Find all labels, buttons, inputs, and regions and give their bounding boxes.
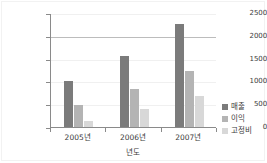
bar-chart-figure: 05001000150020002500 2005년2006년2007년 년도 … — [0, 0, 267, 163]
legend-item[interactable]: 이익 — [222, 113, 266, 124]
x-tick-label: 2005년 — [48, 133, 108, 142]
x-tick-label: 2007년 — [158, 133, 218, 142]
legend-label: 매출 — [231, 102, 245, 111]
x-tick-mark — [216, 128, 217, 132]
y-tick-label: 2000 — [223, 33, 267, 40]
x-tick-mark — [105, 128, 106, 132]
legend-label: 이익 — [231, 114, 245, 123]
legend-swatch-icon — [222, 128, 228, 134]
bar — [64, 81, 73, 127]
bar — [185, 71, 194, 127]
x-tick-mark — [50, 128, 51, 132]
bar — [140, 109, 149, 127]
gridline-2500 — [51, 14, 216, 15]
x-axis-title: 년도 — [50, 148, 216, 157]
plot-area — [50, 14, 216, 128]
bar — [120, 56, 129, 127]
legend-item[interactable]: 매출 — [222, 101, 266, 112]
gridline-2000 — [51, 37, 216, 38]
bar — [84, 121, 93, 127]
x-tick-label: 2006년 — [103, 133, 163, 142]
y-tick-label: 1500 — [223, 56, 267, 63]
y-tick-label: 2500 — [223, 10, 267, 17]
bar — [175, 24, 184, 128]
chart-legend: 매출이익고정비 — [222, 101, 266, 137]
legend-label: 고정비 — [231, 126, 252, 135]
legend-swatch-icon — [222, 116, 228, 122]
bar — [195, 96, 204, 127]
x-tick-mark — [161, 128, 162, 132]
legend-item[interactable]: 고정비 — [222, 125, 266, 136]
legend-swatch-icon — [222, 104, 228, 110]
bar — [130, 89, 139, 127]
gridline-1500 — [51, 60, 216, 61]
y-tick-label: 1000 — [223, 78, 267, 85]
bar — [74, 105, 83, 127]
